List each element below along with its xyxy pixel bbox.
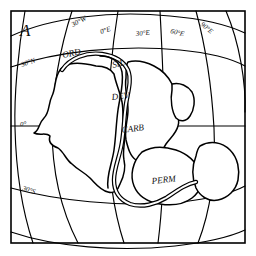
figure-panel: 30°W 0°E 30°E 60°E 90°E 30°N 0° 30°S ORD… [0,0,256,256]
meridian-label-30E: 30°E [134,28,151,38]
parallel-label-0: 0° [20,120,27,128]
australia-outline [193,143,239,201]
paleogeographic-map: 30°W 0°E 30°E 60°E 90°E 30°N 0° 30°S ORD… [0,0,256,256]
panel-label: A [19,21,31,40]
period-label-devonian: DEV [110,90,131,102]
